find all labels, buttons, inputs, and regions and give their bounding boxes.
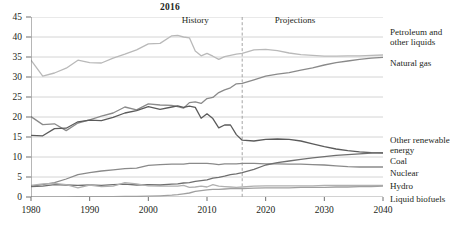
- series-label-petroleum: Petroleum and other liquids: [390, 27, 442, 47]
- era-label-projections: Projections: [275, 17, 316, 25]
- x-tick-label: 2010: [198, 205, 217, 215]
- series-label-other-renewable-line1: Other renewable: [390, 135, 450, 145]
- y-tick-label: 35: [13, 52, 23, 62]
- series-line-coal: [31, 106, 383, 153]
- chart-title: 2016: [0, 2, 340, 12]
- series-label-natural-gas: Natural gas: [390, 58, 431, 68]
- chart-svg: HistoryProjections: [31, 17, 383, 197]
- y-tick-label: 30: [13, 72, 23, 82]
- series-label-petroleum-line2: other liquids: [390, 37, 435, 47]
- series-label-liquid-biofuels: Liquid biofuels: [390, 194, 445, 204]
- series-line-nuclear: [31, 163, 383, 186]
- series-line-petroleum-and-other-liquids: [31, 35, 383, 76]
- series-label-other-renewable-line2: energy: [390, 145, 414, 155]
- y-tick-label: 5: [17, 172, 22, 182]
- series-label-hydro: Hydro: [390, 181, 413, 191]
- y-tick-label: 10: [13, 152, 23, 162]
- series-label-nuclear: Nuclear: [390, 168, 418, 178]
- x-tick-label: 1980: [22, 205, 41, 215]
- x-tick-label: 2030: [315, 205, 334, 215]
- series-label-coal: Coal: [390, 156, 407, 166]
- y-tick-label: 45: [13, 12, 23, 22]
- y-tick-label: 20: [13, 112, 23, 122]
- series-line-other-renewable-energy: [31, 153, 383, 187]
- series-label-other-renewable: Other renewable energy: [390, 135, 450, 155]
- plot-area: HistoryProjections: [31, 17, 383, 197]
- chart-container: 2016 HistoryProjections 0510152025303540…: [0, 0, 470, 226]
- series-line-natural-gas: [31, 57, 383, 130]
- x-tick-label: 1990: [80, 205, 99, 215]
- x-tick-label: 2000: [139, 205, 158, 215]
- x-tick-label: 2040: [374, 205, 393, 215]
- y-axis: 051015202530354045: [0, 8, 31, 208]
- series-label-petroleum-line1: Petroleum and: [390, 27, 442, 37]
- x-tick-label: 2020: [256, 205, 275, 215]
- y-tick-label: 15: [13, 132, 23, 142]
- y-tick-label: 40: [13, 32, 23, 42]
- era-label-history: History: [182, 17, 210, 25]
- x-axis: 1980199020002010202020302040: [0, 196, 420, 226]
- y-tick-label: 25: [13, 92, 23, 102]
